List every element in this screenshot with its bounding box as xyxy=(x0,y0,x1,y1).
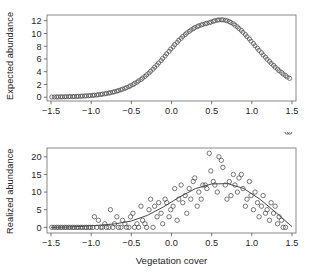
data-point xyxy=(189,197,193,201)
data-point xyxy=(229,193,233,197)
data-point xyxy=(151,225,155,229)
data-point xyxy=(108,208,112,212)
data-point xyxy=(267,218,271,222)
y-tick-label: 12 xyxy=(31,16,41,26)
data-point xyxy=(167,215,171,219)
x-axis-label: Vegetation cover xyxy=(47,255,296,266)
data-point xyxy=(221,165,225,169)
data-point xyxy=(235,190,239,194)
data-point xyxy=(160,222,164,226)
plot-area-realized: 05101520−1.5−1.0−0.50.00.51.01.5 xyxy=(0,132,310,275)
data-point xyxy=(245,197,249,201)
data-point xyxy=(273,204,277,208)
data-point xyxy=(257,215,261,219)
data-point xyxy=(225,197,229,201)
data-point xyxy=(195,204,199,208)
data-point xyxy=(231,172,235,176)
plot-area-expected: 024681012−1.5−1.0−0.50.00.51.01.5 xyxy=(0,0,310,132)
figure-panel-pair: Expected abundance 024681012−1.5−1.0−0.5… xyxy=(0,0,310,275)
data-point xyxy=(275,222,279,226)
data-point xyxy=(259,204,263,208)
data-point xyxy=(261,193,265,197)
y-tick-label: 10 xyxy=(31,187,41,197)
data-point xyxy=(255,200,259,204)
data-point xyxy=(251,208,255,212)
x-tick-label: −1.0 xyxy=(82,238,100,248)
x-tick-label: 0.0 xyxy=(165,106,178,116)
data-point xyxy=(199,197,203,201)
x-tick-label: −1.0 xyxy=(82,106,100,116)
data-point xyxy=(253,190,257,194)
data-point xyxy=(173,186,177,190)
panel-expected-abundance: Expected abundance 024681012−1.5−1.0−0.5… xyxy=(0,0,310,132)
data-point xyxy=(159,211,163,215)
data-point xyxy=(92,215,96,219)
data-point xyxy=(249,193,253,197)
y-tick-label: 20 xyxy=(31,152,41,162)
data-point xyxy=(197,190,201,194)
data-point xyxy=(131,211,135,215)
data-point xyxy=(187,186,191,190)
panel-realized-abundance: Realized abundance 05101520−1.5−1.0−0.50… xyxy=(0,132,310,275)
data-point xyxy=(239,172,243,176)
data-point xyxy=(179,183,183,187)
data-point xyxy=(247,179,251,183)
y-tick-label: 0 xyxy=(36,223,41,233)
plot-frame xyxy=(47,15,296,101)
x-tick-label: −1.5 xyxy=(42,238,60,248)
data-point xyxy=(156,200,160,204)
data-point xyxy=(139,204,143,208)
x-tick-label: 0.5 xyxy=(205,238,218,248)
data-point xyxy=(147,208,151,212)
data-point xyxy=(227,179,231,183)
data-point xyxy=(155,215,159,219)
data-point xyxy=(269,200,273,204)
x-tick-label: 0.0 xyxy=(165,238,178,248)
y-tick-label: 15 xyxy=(31,170,41,180)
y-tick-label: 0 xyxy=(36,92,41,102)
data-point xyxy=(152,204,156,208)
data-point xyxy=(279,218,283,222)
y-tick-label: 2 xyxy=(36,80,41,90)
data-point xyxy=(209,169,213,173)
y-tick-label: 4 xyxy=(36,67,41,77)
x-tick-label: −1.5 xyxy=(42,106,60,116)
x-tick-label: 1.0 xyxy=(245,106,258,116)
x-tick-label: 0.5 xyxy=(205,106,218,116)
data-point xyxy=(148,197,152,201)
y-tick-label: 5 xyxy=(36,205,41,215)
plot-frame xyxy=(47,148,296,233)
x-tick-label: 1.0 xyxy=(245,238,258,248)
data-point xyxy=(215,190,219,194)
data-point xyxy=(171,204,175,208)
y-tick-label: 6 xyxy=(36,54,41,64)
data-point xyxy=(207,151,211,155)
x-tick-label: 1.5 xyxy=(286,238,299,248)
data-point xyxy=(219,158,223,162)
data-point xyxy=(243,204,247,208)
x-tick-label: −0.5 xyxy=(122,106,140,116)
y-tick-label: 8 xyxy=(36,42,41,52)
data-point xyxy=(175,218,179,222)
data-point xyxy=(115,215,119,219)
y-tick-label: 10 xyxy=(31,29,41,39)
data-point xyxy=(271,211,275,215)
x-tick-label: −0.5 xyxy=(122,238,140,248)
data-point xyxy=(181,200,185,204)
data-point xyxy=(185,211,189,215)
x-tick-label: 1.5 xyxy=(286,106,299,116)
data-point xyxy=(96,218,100,222)
